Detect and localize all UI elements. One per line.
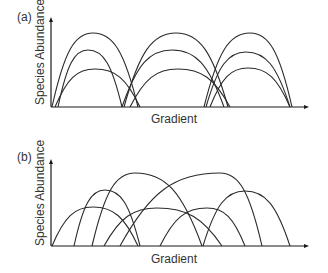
species-curve xyxy=(124,33,228,107)
panel-a-x-axis-label: Gradient xyxy=(151,112,197,126)
panel-b-x-arrow-icon xyxy=(304,244,309,248)
panel-a-curves xyxy=(52,33,292,107)
panel-a-y-axis-label: Species Abundance xyxy=(33,0,47,105)
species-curve xyxy=(52,33,138,107)
panel-a-label: (a) xyxy=(17,10,32,24)
panel-b-y-axis-label: Species Abundance xyxy=(33,140,47,246)
panel-b-x-axis-label: Gradient xyxy=(151,252,197,266)
species-curve xyxy=(130,69,230,107)
panel-b-y-arrow-icon xyxy=(49,159,53,164)
diagram-canvas xyxy=(0,0,328,273)
species-curve xyxy=(204,33,292,107)
panel-a-y-arrow-icon xyxy=(49,17,53,22)
figure: (a) Species Abundance Gradient (b) Speci… xyxy=(0,0,328,273)
panel-b-label: (b) xyxy=(17,150,32,164)
species-curve xyxy=(55,69,140,107)
panel-a-x-arrow-icon xyxy=(304,105,309,109)
panel-b-curves xyxy=(52,173,290,246)
species-curve xyxy=(160,208,245,246)
species-curve xyxy=(58,50,122,107)
species-curve xyxy=(52,207,138,246)
